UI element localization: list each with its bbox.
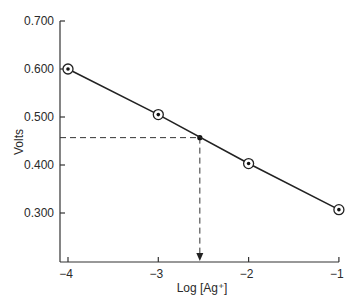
- y-axis-ticks: 0.7000.6000.5000.4000.300: [24, 14, 65, 220]
- x-axis-title: Log [Ag⁺]: [177, 281, 228, 295]
- interpolation-guides: [60, 135, 203, 261]
- arrow-down-icon: [196, 253, 203, 261]
- data-point-center: [337, 208, 341, 212]
- y-tick-label: 0.700: [24, 14, 54, 28]
- data-point-center: [66, 67, 70, 71]
- x-tick-label: −4: [59, 267, 73, 281]
- y-tick-label: 0.500: [24, 110, 54, 124]
- x-tick-label: −1: [330, 267, 344, 281]
- x-axis-ticks: −4−3−2−1: [59, 257, 344, 281]
- y-tick-label: 0.400: [24, 158, 54, 172]
- y-tick-label: 0.300: [24, 206, 54, 220]
- x-tick-label: −2: [240, 267, 254, 281]
- calibration-chart: 0.7000.6000.5000.4000.300 −4−3−2−1 Volts…: [0, 0, 356, 301]
- data-point-center: [157, 113, 161, 117]
- data-point-center: [247, 162, 251, 166]
- x-tick-label: −3: [149, 267, 163, 281]
- y-tick-label: 0.600: [24, 62, 54, 76]
- calibration-line: [68, 69, 339, 210]
- y-axis-title: Volts: [12, 129, 26, 155]
- data-series: [63, 64, 344, 215]
